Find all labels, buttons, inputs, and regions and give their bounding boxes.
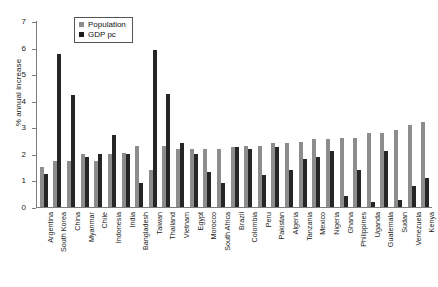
bar-gdp-pc [371,202,375,207]
bar-group [419,21,433,207]
bar-gdp-pc [330,151,334,207]
bar-gdp-pc [275,147,279,207]
bar-gdp-pc [316,157,320,207]
x-category: Guatemala [378,210,392,287]
x-category: Colombia [241,210,255,287]
y-tick: 0 [32,208,36,209]
bar-gdp-pc [344,196,348,207]
x-category: China [64,210,78,287]
legend-label: GDP pc [88,30,116,39]
y-tick-label: 6 [22,45,26,53]
x-category: Vietnam [173,210,187,287]
x-category: Venezuela [405,210,419,287]
bar-group [391,21,405,207]
x-category: Ghana [337,210,351,287]
x-category: South Korea [51,210,65,287]
x-category: Tanzania [296,210,310,287]
x-category: South Africa [214,210,228,287]
x-category: Nigeria [323,210,337,287]
bar-group [350,21,364,207]
x-category: Thailand [160,210,174,287]
x-category: Philippines [350,210,364,287]
x-category: Uganda [364,210,378,287]
bar-group [119,21,133,207]
bar-gdp-pc [194,154,198,207]
bar-gdp-pc [112,135,116,207]
y-tick: 6 [32,49,36,50]
y-tick-label: 1 [22,177,26,185]
x-category-label: Kenya [428,212,435,232]
bar-group [132,21,146,207]
y-tick-label: 4 [22,98,26,106]
bar-group [105,21,119,207]
bar-group [201,21,215,207]
bar-groups [37,21,432,207]
bar-group [405,21,419,207]
bar-gdp-pc [248,149,252,207]
legend-label: Population [88,20,126,29]
x-category: Chile [92,210,106,287]
bar-group [187,21,201,207]
bar-gdp-pc [207,172,211,207]
bar-gdp-pc [262,175,266,207]
bar-group [37,21,51,207]
bar-group [310,21,324,207]
bar-gdp-pc [235,147,239,207]
bar-group [51,21,65,207]
legend-item: Population [79,20,126,29]
y-tick: 5 [32,75,36,76]
y-tick-label: 5 [22,71,26,79]
x-category: Algeria [282,210,296,287]
bar-gdp-pc [398,200,402,207]
bar-gdp-pc [71,95,75,207]
bar-chart: % annual increase 01234567 ArgentinaSout… [0,0,438,287]
bar-group [296,21,310,207]
bar-group [228,21,242,207]
y-tick-label: 2 [22,151,26,159]
x-category: India [119,210,133,287]
bar-group [378,21,392,207]
legend-item: GDP pc [79,30,126,39]
bar-group [78,21,92,207]
bar-gdp-pc [57,54,61,207]
bar-group [282,21,296,207]
y-tick: 2 [32,155,36,156]
bar-gdp-pc [139,183,143,207]
bar-group [241,21,255,207]
y-tick-label: 7 [22,18,26,26]
y-tick: 1 [32,181,36,182]
bar-group [269,21,283,207]
x-category: Pakistan [269,210,283,287]
y-tick-label: 0 [22,204,26,212]
bar-group [92,21,106,207]
x-category: Taiwan [146,210,160,287]
bar-gdp-pc [166,94,170,207]
bar-gdp-pc [85,157,89,207]
bar-group [255,21,269,207]
bar-group [323,21,337,207]
bar-gdp-pc [221,183,225,207]
bar-gdp-pc [425,178,429,207]
bar-gdp-pc [98,154,102,207]
x-category: Argentina [37,210,51,287]
x-category: Morocco [201,210,215,287]
bar-group [64,21,78,207]
x-category: Brazil [228,210,242,287]
bar-gdp-pc [180,143,184,207]
y-tick-label: 3 [22,124,26,132]
x-category: Kenya [419,210,433,287]
bar-gdp-pc [412,186,416,207]
bar-population [394,130,398,207]
bar-gdp-pc [357,170,361,207]
y-tick: 3 [32,128,36,129]
bar-gdp-pc [126,154,130,207]
x-category: Indonesia [105,210,119,287]
legend-swatch-pop [79,22,84,27]
bar-gdp-pc [289,170,293,207]
y-tick: 7 [32,22,36,23]
chart-legend: PopulationGDP pc [74,17,133,43]
legend-swatch-gdp [79,32,84,37]
bar-group [173,21,187,207]
x-category: Bangladesh [132,210,146,287]
bar-group [214,21,228,207]
